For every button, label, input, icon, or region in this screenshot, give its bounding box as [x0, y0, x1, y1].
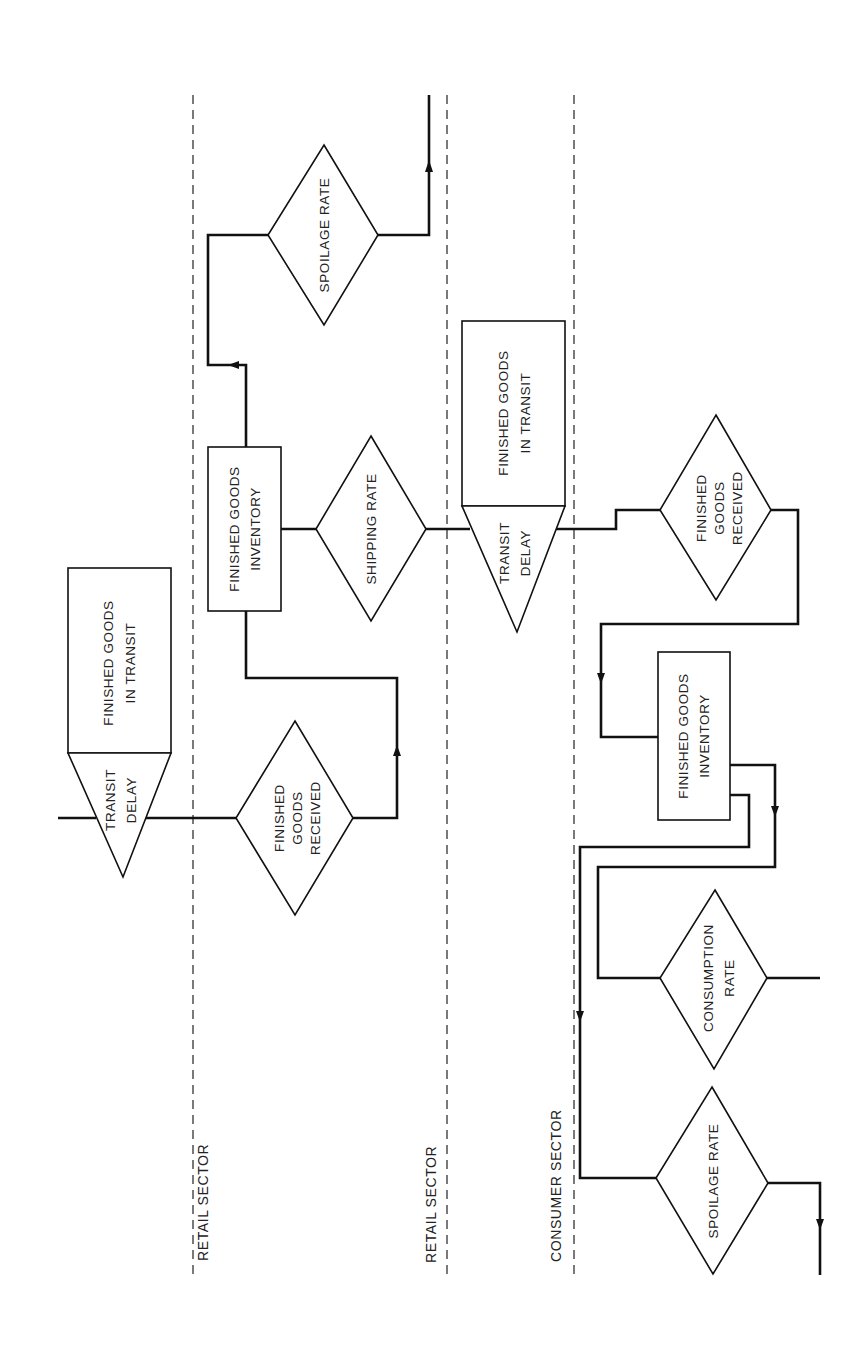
retail-spoilage-rate-label: SPOILAGE RATE — [317, 178, 332, 293]
sector-label-retail-left: RETAIL SECTOR — [195, 1144, 211, 1261]
shipping-rate: SHIPPING RATE — [316, 436, 426, 621]
arrow-up-icon — [393, 745, 401, 756]
consumer-received-line3: RECEIVED — [730, 471, 745, 545]
retail-received-line3: RECEIVED — [308, 781, 323, 855]
consumer-inventory-line1: FINISHED GOODS — [676, 673, 691, 798]
arrow-down-icon — [771, 806, 779, 817]
consumer-transit-level-line1: FINISHED GOODS — [496, 350, 511, 475]
consumer-spoilage-rate: SPOILAGE RATE — [656, 1087, 768, 1274]
arrow-left-icon — [228, 361, 239, 369]
consumer-finished-goods-in-transit: FINISHED GOODS IN TRANSIT — [462, 321, 565, 506]
retail-finished-goods-received: FINISHED GOODS RECEIVED — [236, 721, 353, 915]
sector-label-consumer: CONSUMER SECTOR — [548, 1109, 564, 1262]
consumer-received-line1: FINISHED — [694, 474, 709, 542]
flow-inventory-to-spoilage — [208, 235, 268, 447]
consumption-rate: CONSUMPTION RATE — [660, 890, 767, 1069]
consumer-transit-level-line2: IN TRANSIT — [518, 373, 533, 454]
consumer-transit-delay: TRANSIT DELAY — [462, 506, 565, 632]
sector-label-retail-right: RETAIL SECTOR — [423, 1146, 439, 1263]
flow-consumer-spoilage-out — [768, 1183, 820, 1275]
consumer-spoilage-rate-label: SPOILAGE RATE — [706, 1124, 721, 1239]
retail-spoilage-rate: SPOILAGE RATE — [268, 145, 378, 325]
arrow-down-icon — [576, 1011, 584, 1022]
retail-transit-level-line1: FINISHED GOODS — [101, 600, 116, 725]
retail-received-line2: GOODS — [290, 791, 305, 844]
retail-transit-delay-line1: TRANSIT — [103, 769, 118, 831]
retail-transit-level-line2: IN TRANSIT — [123, 623, 138, 704]
consumer-finished-goods-received: FINISHED GOODS RECEIVED — [660, 415, 771, 600]
consumer-received-line2: GOODS — [712, 481, 727, 534]
flow-retail-spoilage-out — [378, 95, 429, 235]
consumption-rate-line1: CONSUMPTION — [701, 924, 716, 1032]
flow-consumer-transit-to-received — [550, 510, 660, 529]
consumer-finished-goods-inventory: FINISHED GOODS INVENTORY — [658, 652, 730, 820]
retail-transit-delay: TRANSIT DELAY — [68, 753, 171, 877]
consumer-transit-delay-line1: TRANSIT — [497, 522, 512, 584]
consumption-rate-line2: RATE — [722, 959, 737, 996]
retail-transit-delay-line2: DELAY — [124, 777, 139, 823]
retail-inventory-line1: FINISHED GOODS — [227, 466, 242, 591]
retail-received-line1: FINISHED — [272, 784, 287, 852]
arrow-down-icon — [597, 673, 605, 684]
arrow-down-icon — [816, 1219, 824, 1230]
retail-inventory-line2: INVENTORY — [248, 487, 263, 571]
retail-finished-goods-inventory: FINISHED GOODS INVENTORY — [208, 447, 281, 611]
shipping-rate-label: SHIPPING RATE — [364, 473, 379, 584]
consumer-transit-delay-line2: DELAY — [518, 530, 533, 576]
consumer-inventory-line2: INVENTORY — [697, 694, 712, 778]
flow-diagram: RETAIL SECTOR RETAIL SECTOR CONSUMER SEC… — [0, 0, 866, 1369]
retail-finished-goods-in-transit: FINISHED GOODS IN TRANSIT — [68, 568, 171, 753]
arrow-up-icon — [425, 160, 433, 172]
